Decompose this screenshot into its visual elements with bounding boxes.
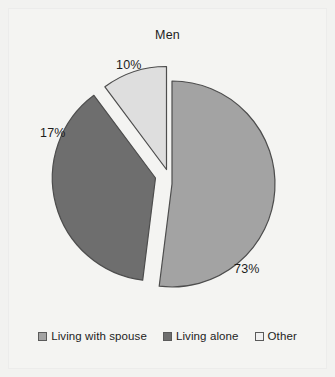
pie-slice-living-with-spouse[interactable] bbox=[159, 81, 275, 287]
slice-value-living-with-spouse: 73% bbox=[234, 262, 260, 276]
legend-swatch-icon bbox=[38, 332, 47, 341]
pie-chart bbox=[0, 0, 335, 377]
chart-legend: Living with spouse Living alone Other bbox=[0, 330, 335, 342]
legend-item-other[interactable]: Other bbox=[255, 330, 297, 342]
legend-item-living-alone[interactable]: Living alone bbox=[163, 330, 239, 342]
slice-value-living-alone: 17% bbox=[40, 126, 66, 140]
legend-label: Living alone bbox=[176, 330, 239, 342]
legend-swatch-icon bbox=[163, 332, 172, 341]
legend-label: Living with spouse bbox=[51, 330, 147, 342]
slice-value-other: 10% bbox=[116, 58, 142, 72]
legend-item-living-with-spouse[interactable]: Living with spouse bbox=[38, 330, 147, 342]
legend-swatch-icon bbox=[255, 332, 264, 341]
legend-label: Other bbox=[268, 330, 297, 342]
chart-page: Men 10% 17% 73% Living with spouse Livin… bbox=[0, 0, 335, 377]
